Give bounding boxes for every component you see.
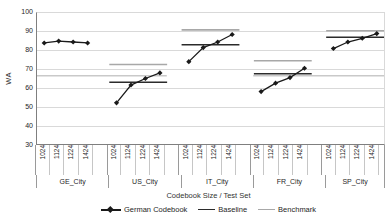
benchmark-line-marker-icon [258, 209, 275, 211]
y-tick-label: 70 [25, 65, 33, 73]
x-tick-label: 1124 [121, 145, 136, 175]
chart-body: WA 10090807060504030 1024112412241424102… [2, 12, 385, 188]
legend-item-benchmark: Benchmark [258, 205, 316, 214]
group-label: SP_City [326, 175, 384, 188]
x-tick-label: 1124 [193, 145, 208, 175]
line-chart: WA 10090807060504030 1024112412241424102… [0, 0, 390, 220]
y-tick-label: 60 [25, 84, 33, 92]
y-tick-label: 30 [25, 141, 33, 149]
x-axis-title: Codebook Size / Test Set [32, 191, 385, 200]
x-tick-label: 1424 [293, 145, 308, 175]
y-tick-label: 90 [25, 27, 33, 35]
y-axis-title-column: WA [2, 12, 15, 145]
x-tick-label: 1024 [178, 145, 193, 175]
plot-area [36, 12, 385, 145]
y-axis-tick-labels: 10090807060504030 [15, 12, 36, 145]
x-tick-label: 1224 [136, 145, 151, 175]
x-tick-label: 1124 [264, 145, 279, 175]
x-tick-label: 1224 [207, 145, 222, 175]
group-label: US_City [109, 175, 181, 188]
legend-label: German Codebook [124, 205, 187, 214]
x-tick-label: 1024 [107, 145, 122, 175]
group-label: FR_City [254, 175, 326, 188]
legend-item-baseline: Baseline [198, 205, 247, 214]
y-axis-title: WA [4, 72, 13, 85]
legend-item-german-codebook: German Codebook [101, 205, 187, 214]
x-axis-tick-labels: 1024112412241424102411241224142410241124… [36, 145, 385, 175]
legend-label: Benchmark [278, 205, 316, 214]
x-tick-label: 1424 [79, 145, 94, 175]
y-tick-label: 100 [21, 8, 33, 16]
x-tick-label: 1024 [321, 145, 336, 175]
x-tick-label: 1224 [279, 145, 294, 175]
y-tick-label: 50 [25, 103, 33, 111]
y-tick-label: 40 [25, 122, 33, 130]
x-tick-label: 1424 [150, 145, 165, 175]
legend-label: Baseline [218, 205, 247, 214]
x-tick-label: 1424 [365, 145, 380, 175]
diamond-line-marker-icon [101, 206, 121, 213]
x-tick-label: 1024 [250, 145, 265, 175]
plot-column: 1024112412241424102411241224142410241124… [36, 12, 385, 188]
x-tick-label: 1024 [35, 145, 50, 175]
x-tick-label: 1224 [350, 145, 365, 175]
x-axis-group-labels: GE_CityUS_CityIT_CityFR_CitySP_City [36, 175, 385, 188]
x-tick-gap [165, 145, 180, 175]
baseline-line-marker-icon [198, 209, 215, 211]
series-plot [37, 13, 384, 144]
x-tick-label: 1124 [336, 145, 351, 175]
x-tick-label: 1124 [50, 145, 65, 175]
x-tick-label: 1424 [222, 145, 237, 175]
group-label: IT_City [182, 175, 254, 188]
y-tick-label: 80 [25, 46, 33, 54]
x-tick-gap [308, 145, 323, 175]
group-label: GE_City [37, 175, 109, 188]
x-tick-gap [93, 145, 108, 175]
legend: German Codebook Baseline Benchmark [32, 205, 385, 214]
x-tick-label: 1224 [64, 145, 79, 175]
x-tick-gap [236, 145, 251, 175]
